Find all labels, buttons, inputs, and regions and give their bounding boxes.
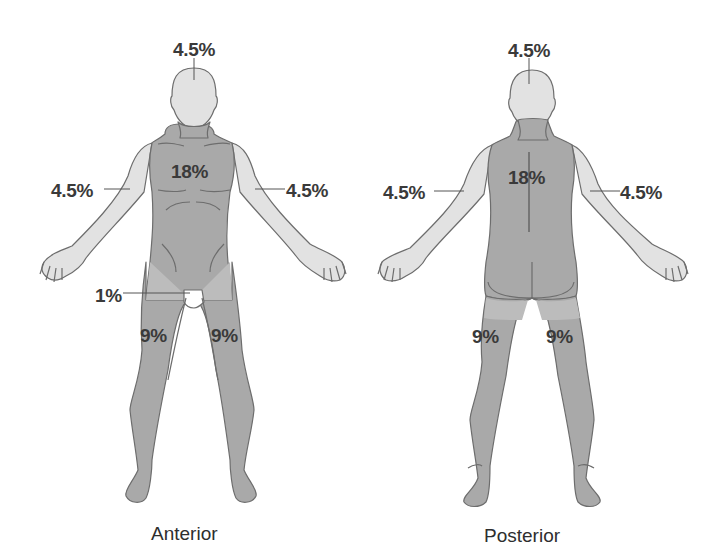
anterior-right-arm-label: 4.5% (51, 181, 93, 200)
posterior-head (509, 70, 556, 124)
posterior-figure: 4.5% 18% 4.5% 4.5% 9% 9% Posterior (358, 0, 716, 553)
posterior-caption: Posterior (484, 526, 560, 545)
anterior-body-illustration (0, 0, 358, 553)
anterior-left-arm-label: 4.5% (286, 181, 328, 200)
anterior-trunk-label: 18% (171, 162, 208, 181)
anterior-arm-left (232, 143, 345, 281)
anterior-head-label: 4.5% (173, 40, 215, 59)
posterior-right-leg-label: 9% (546, 327, 573, 346)
posterior-arm-right (572, 145, 687, 281)
anterior-arm-right (42, 143, 152, 280)
posterior-trunk (485, 118, 578, 301)
posterior-arm-left (380, 145, 492, 281)
posterior-right-arm-label: 4.5% (620, 183, 662, 202)
posterior-left-arm-label: 4.5% (383, 183, 425, 202)
posterior-left-leg-label: 9% (472, 327, 499, 346)
posterior-trunk-label: 18% (508, 168, 545, 187)
anterior-caption: Anterior (151, 524, 218, 543)
posterior-head-label: 4.5% (508, 41, 550, 60)
posterior-body-illustration (358, 0, 716, 553)
anterior-figure: 4.5% 18% 4.5% 4.5% 1% 9% 9% Anterior (0, 0, 358, 553)
anterior-left-leg-label: 9% (211, 326, 238, 345)
anterior-genitalia-label: 1% (95, 286, 122, 305)
anterior-right-leg-label: 9% (140, 326, 167, 345)
